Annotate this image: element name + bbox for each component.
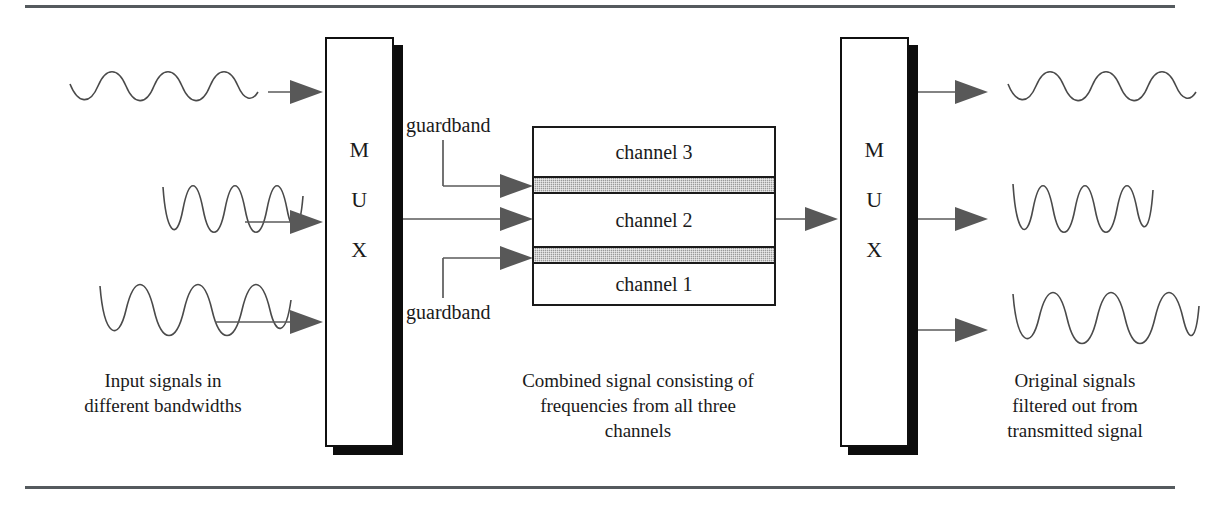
channel-1-label: channel 1 — [615, 273, 692, 296]
mux1-to-channel2-arrowhead — [500, 207, 533, 231]
mux-left-letter-m: M — [349, 139, 369, 161]
mux-left-letter-x: X — [351, 239, 367, 261]
mux-right-shadow-right — [909, 45, 918, 455]
guardband-band-upper — [534, 176, 774, 194]
mux-left-letter-u: U — [351, 189, 367, 211]
output-wave-1 — [1008, 72, 1196, 101]
mux-left-shadow-right — [394, 45, 403, 455]
mux-right-letter-x: X — [866, 239, 882, 261]
mux-right-label: M U X — [840, 100, 909, 300]
caption-combined-signal: Combined signal consisting of frequencie… — [440, 368, 836, 443]
guardband-bottom-arrowhead — [500, 246, 533, 270]
combined-signal-channel-box[interactable]: channel 3 channel 2 channel 1 — [532, 126, 776, 306]
input-arrowhead-3 — [290, 310, 323, 334]
channelbox-to-mux2-arrowhead — [805, 207, 838, 231]
output-arrowhead-2 — [955, 207, 988, 231]
channel-row-1: channel 1 — [534, 264, 774, 304]
input-wave-2 — [163, 186, 303, 233]
mux-left-shadow-bottom — [333, 446, 403, 455]
mux-left-label: M U X — [325, 100, 394, 300]
output-arrowhead-3 — [955, 318, 988, 342]
channel-row-3: channel 3 — [534, 128, 774, 176]
channel-3-label: channel 3 — [615, 141, 692, 164]
input-arrowhead-1 — [290, 80, 323, 104]
guardband-top-arrowhead — [500, 174, 533, 198]
figure-canvas: M U X M U X channel 3 channel 2 channel … — [0, 0, 1218, 506]
caption-original-signals: Original signals filtered out from trans… — [950, 368, 1200, 443]
input-arrowhead-2 — [290, 210, 323, 234]
channel-row-2: channel 2 — [534, 194, 774, 246]
mux-right-letter-u: U — [866, 189, 882, 211]
output-wave-2 — [1013, 184, 1153, 232]
channel-2-label: channel 2 — [615, 209, 692, 232]
mux-right-letter-m: M — [864, 139, 884, 161]
caption-input-signals: Input signals in different bandwidths — [30, 368, 296, 418]
output-wave-3 — [1013, 293, 1199, 344]
output-arrowhead-1 — [955, 80, 988, 104]
guardband-band-lower — [534, 246, 774, 264]
mux-right-shadow-bottom — [848, 446, 918, 455]
input-wave-3 — [100, 285, 291, 336]
input-wave-1 — [70, 72, 258, 101]
guardband-label-bottom: guardband — [406, 301, 490, 324]
guardband-label-top: guardband — [406, 114, 490, 137]
